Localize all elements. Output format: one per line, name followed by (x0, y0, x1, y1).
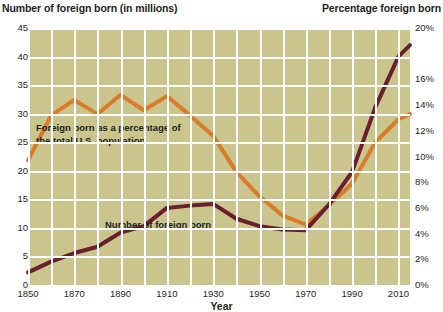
vertical-gridline (190, 28, 192, 285)
right-axis-tick-label: 2% (415, 253, 443, 264)
right-axis-tick-label: 4% (415, 228, 443, 239)
right-axis-tick-label: 8% (415, 176, 443, 187)
left-axis-tick-label: 25 (4, 136, 28, 147)
left-axis-tick-label: 5 (4, 250, 28, 261)
right-axis-tick-label: 10% (415, 151, 443, 162)
horizontal-gridline (28, 142, 410, 144)
vertical-gridline (144, 28, 146, 285)
vertical-gridline (97, 28, 99, 285)
horizontal-gridline (28, 285, 410, 287)
vertical-gridline (213, 28, 215, 285)
x-axis-tick-label: 1870 (49, 288, 99, 299)
vertical-gridline (375, 28, 377, 285)
vertical-gridline (352, 28, 354, 285)
vertical-gridline (74, 28, 76, 285)
left-axis-tick-label: 10 (4, 222, 28, 233)
foreign-born-chart: Number of foreign born (in millions) Per… (0, 0, 443, 312)
vertical-gridline (329, 28, 331, 285)
vertical-gridline (306, 28, 308, 285)
orange-annotation-line-1: Foreign born as a percentage of (36, 121, 181, 134)
right-axis-tick-label: 12% (415, 125, 443, 136)
horizontal-gridline (28, 171, 410, 173)
vertical-gridline (398, 28, 400, 285)
left-axis-title: Number of foreign born (in millions) (2, 2, 177, 14)
orange-annotation-line-2: the total U.S. population (36, 134, 181, 147)
vertical-gridline (28, 28, 30, 285)
horizontal-gridline (28, 114, 410, 116)
right-axis-tick-label: 20% (415, 22, 443, 33)
left-axis-tick-label: 35 (4, 79, 28, 90)
vertical-gridline (51, 28, 53, 285)
x-axis-tick-label: 1890 (96, 288, 146, 299)
vertical-gridline (260, 28, 262, 285)
x-axis-tick-label: 1990 (327, 288, 377, 299)
vertical-gridline (283, 28, 285, 285)
left-axis-tick-label: 45 (4, 22, 28, 33)
x-axis-tick-label: 1910 (142, 288, 192, 299)
left-axis-tick-label: 30 (4, 108, 28, 119)
x-axis-tick-label: 1850 (3, 288, 53, 299)
right-axis-title: Percentage foreign born (322, 2, 441, 14)
x-axis-tick-label: 2010 (373, 288, 423, 299)
x-axis-tick-label: 1970 (281, 288, 331, 299)
x-axis-tick-label: 1950 (235, 288, 285, 299)
horizontal-gridline (28, 228, 410, 230)
horizontal-gridline (28, 85, 410, 87)
right-axis-tick-label: 14% (415, 99, 443, 110)
horizontal-gridline (28, 28, 410, 30)
vertical-gridline (236, 28, 238, 285)
vertical-gridline (121, 28, 123, 285)
left-axis-tick-label: 15 (4, 193, 28, 204)
left-axis-tick-label: 40 (4, 51, 28, 62)
horizontal-gridline (28, 256, 410, 258)
horizontal-gridline (28, 57, 410, 59)
right-axis-tick-label: 6% (415, 202, 443, 213)
x-axis-tick-label: 1930 (188, 288, 238, 299)
plot-area: Foreign born as a percentage of the tota… (28, 28, 410, 285)
vertical-gridline (167, 28, 169, 285)
left-axis-tick-label: 20 (4, 165, 28, 176)
right-axis-tick-label: 16% (415, 73, 443, 84)
x-axis-title: Year (0, 300, 443, 312)
horizontal-gridline (28, 199, 410, 201)
